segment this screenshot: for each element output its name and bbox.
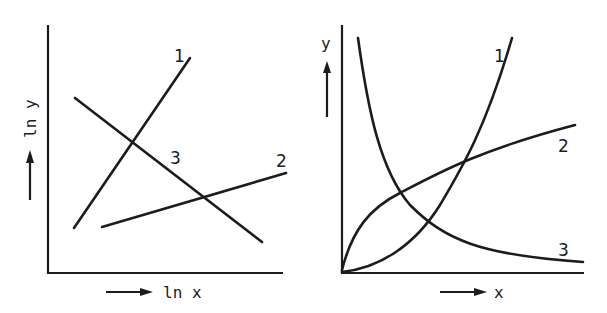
right-panel: 1 2 3 y x	[321, 25, 584, 302]
left-line-2	[102, 173, 286, 227]
right-curve-label-2: 2	[558, 136, 569, 156]
left-x-axis-label-group: ln x	[106, 283, 202, 302]
figure: 1 2 3 ln y ln x 1 2 3 y	[0, 0, 607, 313]
left-x-arrowhead-icon	[140, 288, 153, 296]
left-panel: 1 2 3 ln y ln x	[21, 25, 287, 302]
right-x-arrowhead-icon	[474, 288, 487, 296]
left-y-axis-label: ln y	[21, 99, 40, 138]
right-curve-label-3: 3	[558, 240, 569, 260]
right-y-axis-label: y	[321, 34, 331, 53]
right-y-arrowhead-icon	[323, 61, 331, 73]
left-curve-label-2: 2	[276, 151, 287, 171]
right-x-axis-label-group: x	[440, 283, 504, 302]
left-y-axis-label-group: ln y	[21, 99, 40, 200]
left-x-axis-label: ln x	[163, 283, 202, 302]
left-curve-label-1: 1	[174, 46, 185, 66]
left-y-arrowhead-icon	[26, 150, 34, 163]
right-x-axis-label: x	[494, 283, 504, 302]
right-y-axis-label-group: y	[321, 34, 331, 117]
right-curve-1	[342, 38, 512, 272]
right-curve-2	[342, 125, 575, 270]
left-curve-label-3: 3	[170, 148, 181, 168]
right-curve-label-1: 1	[494, 46, 505, 66]
left-line-3	[75, 98, 262, 242]
